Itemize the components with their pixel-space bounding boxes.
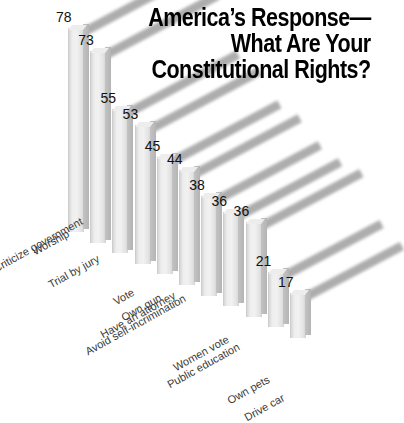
bar-side-face xyxy=(105,47,111,239)
bar-value-label: 55 xyxy=(100,90,116,106)
bar-depth-face xyxy=(279,220,384,281)
bar-side-face xyxy=(127,105,133,250)
bar-value-label: 44 xyxy=(167,151,183,167)
bar-value-label: 36 xyxy=(211,193,227,209)
bar-side-face xyxy=(172,153,178,272)
bar-side-face xyxy=(305,289,311,335)
bar-value-label: 53 xyxy=(123,106,139,122)
category-label: Trial by jury xyxy=(46,253,101,291)
chart-title-line-3: Constitutional Rights? xyxy=(149,56,371,82)
category-label: Vote xyxy=(111,286,136,307)
bar-front-face xyxy=(201,196,217,296)
bar-depth-face xyxy=(301,242,404,303)
chart-title: America’s Response— What Are Your Consti… xyxy=(149,4,371,82)
bar-side-face xyxy=(238,208,244,303)
bar-front-face xyxy=(112,109,128,253)
bar-front-face xyxy=(68,28,84,232)
bar-value-label: 73 xyxy=(78,32,94,48)
chart-title-line-2: What Are Your xyxy=(149,30,371,56)
bar-value-label: 45 xyxy=(145,138,161,154)
bar-side-face xyxy=(83,24,89,229)
bar-front-face xyxy=(246,222,262,316)
bar-value-label: 38 xyxy=(189,177,205,193)
category-label: Avoid self-incrimination xyxy=(83,292,188,357)
bar-front-face xyxy=(290,293,306,338)
bar-front-face xyxy=(90,51,106,242)
bar-value-label: 21 xyxy=(256,253,272,269)
bar-value-label: 78 xyxy=(56,9,72,25)
category-label: Drive car xyxy=(243,391,287,423)
bar-value-label: 36 xyxy=(234,203,250,219)
chart-title-line-1: America’s Response— xyxy=(149,4,371,30)
bar-value-label: 17 xyxy=(278,274,294,290)
bar-front-face xyxy=(223,212,239,306)
bar-front-face xyxy=(157,157,173,275)
